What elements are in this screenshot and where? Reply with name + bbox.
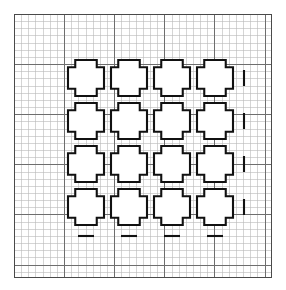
panel-fill: [15, 15, 272, 278]
grid-figure: [0, 0, 286, 290]
figure-root: [0, 0, 286, 290]
